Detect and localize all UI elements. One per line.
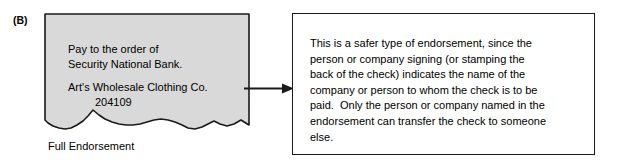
check-caption: Full Endorsement	[48, 139, 134, 153]
description-line: This is a safer type of endorsement, sin…	[310, 36, 587, 52]
description-line: person or company signing (or stamping t…	[310, 52, 587, 68]
description-line: endorsement can transfer the check to so…	[310, 114, 587, 130]
check-line-bank-name: Security National Bank.	[68, 57, 182, 72]
endorsement-figure: (B) Pay to the order of Security Nationa…	[0, 0, 622, 167]
check-line-account-number: 204109	[95, 95, 132, 110]
arrow-right-icon	[244, 80, 294, 97]
description-line: paid. Only the person or company named i…	[310, 98, 587, 114]
check-line-company-name: Art's Wholesale Clothing Co.	[68, 80, 208, 95]
description-line: else.	[310, 130, 587, 146]
description-line: back of the check) indicates the name of…	[310, 67, 587, 83]
description-paragraph: This is a safer type of endorsement, sin…	[310, 36, 587, 145]
description-box: This is a safer type of endorsement, sin…	[292, 13, 595, 155]
description-line: company or person to whom the check is t…	[310, 83, 587, 99]
check-illustration: Pay to the order of Security National Ba…	[44, 13, 250, 165]
check-line-pay-to-order: Pay to the order of	[68, 42, 159, 57]
check-endorsement-text: Pay to the order of Security National Ba…	[44, 13, 250, 131]
panel-label: (B)	[13, 14, 28, 26]
